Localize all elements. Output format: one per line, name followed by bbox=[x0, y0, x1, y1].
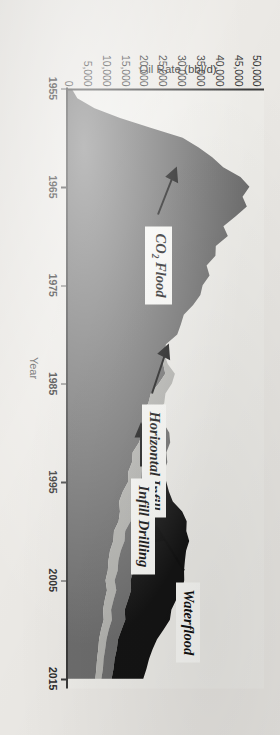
x-tick-mark bbox=[61, 285, 68, 286]
area-series-svg bbox=[68, 88, 264, 688]
annotation-label-waterflood: Waterflood bbox=[176, 582, 200, 662]
x-tick-mark bbox=[61, 88, 68, 89]
x-axis-line bbox=[66, 87, 68, 688]
figure-page: 05,00010,00015,00020,00025,00030,00035,0… bbox=[0, 0, 280, 735]
x-tick-label: 2005 bbox=[47, 568, 59, 591]
plot-wrapper: 05,00010,00015,00020,00025,00030,00035,0… bbox=[0, 0, 280, 735]
x-tick-mark bbox=[61, 678, 68, 679]
x-tick-mark bbox=[61, 186, 68, 187]
y-tick-label: 0 bbox=[63, 4, 75, 86]
x-tick-label: 1975 bbox=[47, 273, 59, 296]
x-tick-label: 1955 bbox=[47, 76, 59, 99]
x-tick-mark bbox=[61, 481, 68, 482]
x-tick-mark bbox=[61, 383, 68, 384]
x-tick-label: 1965 bbox=[47, 175, 59, 198]
x-tick-label: 2015 bbox=[47, 666, 59, 689]
x-tick-label: 1985 bbox=[47, 371, 59, 394]
x-tick-label: 1995 bbox=[47, 470, 59, 493]
stacked-area-plot bbox=[68, 88, 264, 688]
x-axis-title: Year bbox=[28, 0, 40, 735]
annotation-label-co2-flood: CO2 Flood bbox=[145, 226, 172, 304]
x-tick-mark bbox=[61, 580, 68, 581]
y-tick-label: 5,000 bbox=[82, 4, 94, 86]
rotated-chart-container: 05,00010,00015,00020,00025,00030,00035,0… bbox=[0, 0, 280, 735]
y-axis-title: Oil Rate (bbl/d) bbox=[98, 62, 258, 74]
y-axis-line bbox=[67, 88, 264, 90]
annotation-label-infill-drilling: Infill Drilling bbox=[131, 478, 155, 574]
